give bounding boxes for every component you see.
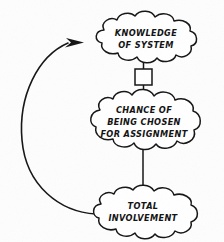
intermediate-box[interactable]: [135, 69, 152, 85]
chance-label-line-2: BEING CHOSEN: [107, 117, 181, 127]
diagram-canvas: KNOWLEDGE OF SYSTEM CHANCE OF BEING CHOS…: [0, 0, 224, 242]
causal-loop-diagram: KNOWLEDGE OF SYSTEM CHANCE OF BEING CHOS…: [0, 0, 224, 242]
knowledge-label-line-1: KNOWLEDGE: [115, 28, 177, 38]
edge-involvement-to-knowledge: [21, 38, 96, 214]
feedback-loop-path: [21, 43, 96, 214]
chance-label-line-1: CHANCE OF: [116, 105, 172, 115]
node-total-involvement[interactable]: TOTAL INVOLVEMENT: [94, 185, 198, 239]
chance-label-line-3: FOR ASSIGNMENT: [100, 129, 188, 139]
involvement-label-line-1: TOTAL: [128, 201, 159, 211]
node-chance-of-being-chosen[interactable]: CHANCE OF BEING CHOSEN FOR ASSIGNMENT: [91, 89, 201, 149]
knowledge-label-line-2: OF SYSTEM: [118, 40, 174, 50]
intermediate-box-rect: [135, 69, 152, 85]
involvement-label-line-2: INVOLVEMENT: [108, 213, 178, 223]
node-knowledge-of-system[interactable]: KNOWLEDGE OF SYSTEM: [96, 11, 196, 63]
